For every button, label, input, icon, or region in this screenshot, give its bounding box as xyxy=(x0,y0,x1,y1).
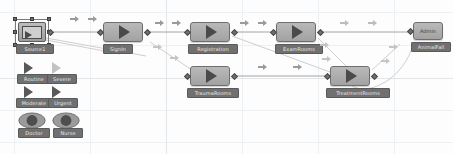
flow-arrow-icon xyxy=(88,16,97,22)
process-flow-canvas[interactable]: Source1 SignIn Registration ExamRooms Ad… xyxy=(0,0,453,154)
node-label-examrooms: ExamRooms xyxy=(275,44,323,54)
node-label-traumarooms: TraumaRooms xyxy=(187,88,239,98)
play-triangle-icon xyxy=(292,25,303,39)
play-triangle-icon xyxy=(206,69,217,83)
play-triangle-icon xyxy=(206,25,217,39)
flow-arrow-icon xyxy=(172,20,181,26)
flow-arrow-icon xyxy=(320,42,329,48)
flow-arrow-icon xyxy=(389,44,398,50)
flow-arrow-icon xyxy=(293,64,302,70)
selection-box xyxy=(15,19,49,45)
entity-label-severe: Severe xyxy=(47,74,77,84)
node-label-admin: AnimalFall xyxy=(411,42,451,52)
play-triangle-icon xyxy=(346,69,357,83)
entity-label-routine: Routine xyxy=(17,74,51,84)
resize-handle-nw[interactable] xyxy=(13,17,17,21)
node-admin-inner-label: Admin xyxy=(420,28,436,34)
node-traumarooms[interactable] xyxy=(190,66,230,86)
node-signin[interactable] xyxy=(103,22,143,42)
flow-arrow-icon xyxy=(258,64,267,70)
flow-arrow-icon xyxy=(258,20,267,26)
resource-label-nurse: Nurse xyxy=(53,128,83,138)
entity-label-urgent: Urgent xyxy=(48,98,78,108)
play-arrow-icon-routine[interactable] xyxy=(24,62,33,74)
node-registration[interactable] xyxy=(190,22,230,42)
node-treatmentrooms[interactable] xyxy=(330,66,370,86)
resource-label-doctor: Doctor xyxy=(18,128,50,138)
node-examrooms[interactable] xyxy=(276,22,316,42)
entity-label-moderate: Moderate xyxy=(16,98,52,108)
flow-arrow-icon xyxy=(368,20,377,26)
flow-arrow-icon xyxy=(322,56,331,62)
play-arrow-icon-severe[interactable] xyxy=(52,62,61,74)
resize-handle-n[interactable] xyxy=(30,17,34,21)
flow-arrow-icon xyxy=(170,55,179,61)
node-admin[interactable]: Admin xyxy=(413,22,443,40)
flow-arrow-icon xyxy=(155,20,164,26)
flow-arrow-icon xyxy=(240,20,249,26)
node-label-source: Source1 xyxy=(16,44,54,54)
play-arrow-icon-moderate[interactable] xyxy=(24,86,33,98)
eye-resource-icon-doctor[interactable] xyxy=(18,112,46,129)
resize-handle-w[interactable] xyxy=(13,30,17,34)
flow-arrow-icon xyxy=(381,58,390,64)
flow-arrow-icon xyxy=(340,20,349,26)
play-arrow-icon-urgent[interactable] xyxy=(52,86,61,98)
eye-resource-icon-nurse[interactable] xyxy=(52,112,80,129)
flow-arrow-icon xyxy=(70,16,79,22)
node-label-treatmentrooms: TreatmentRooms xyxy=(326,88,390,98)
flow-arrow-icon xyxy=(153,44,162,50)
play-triangle-icon xyxy=(119,25,130,39)
node-label-registration: Registration xyxy=(188,44,238,54)
node-label-signin: SignIn xyxy=(103,44,133,54)
resize-handle-ne[interactable] xyxy=(47,17,51,21)
